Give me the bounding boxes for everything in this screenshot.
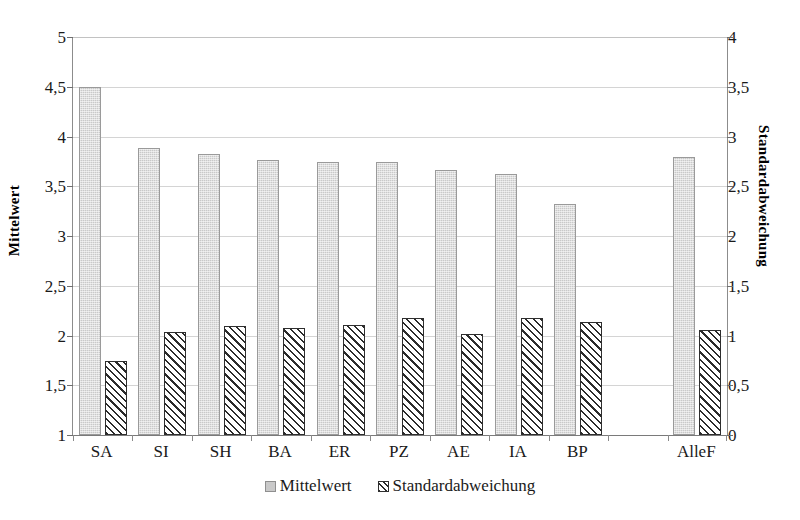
x-axis-label: IA: [488, 440, 547, 466]
x-axis-label: AlleF: [667, 440, 726, 466]
right-axis-tickmark: [727, 236, 733, 237]
bar-mittelwert[interactable]: [257, 160, 279, 435]
bar-standardabweichung[interactable]: [164, 332, 186, 435]
chart-title-remnant: [0, 0, 800, 6]
right-axis-tickmark: [727, 286, 733, 287]
bar-groups: [73, 37, 727, 435]
right-axis-tickmark: [727, 435, 733, 436]
bar-standardabweichung[interactable]: [283, 328, 305, 435]
left-tick-label: 4,5: [45, 79, 66, 96]
bar-group: [430, 37, 489, 435]
left-tick-label: 4: [58, 129, 67, 146]
right-axis-tickmark: [727, 87, 733, 88]
bar-standardabweichung[interactable]: [224, 326, 246, 435]
right-axis-tick-labels: 00,511,522,533,54: [728, 0, 768, 520]
bar-group: [608, 37, 667, 435]
x-axis-label: BA: [250, 440, 309, 466]
bar-group: [132, 37, 191, 435]
right-axis-tickmark: [727, 385, 733, 386]
bar-standardabweichung[interactable]: [461, 334, 483, 435]
x-axis-label: SH: [191, 440, 250, 466]
bar-mittelwert[interactable]: [435, 170, 457, 435]
x-axis-label: AE: [429, 440, 488, 466]
bar-standardabweichung[interactable]: [521, 318, 543, 435]
bar-mittelwert[interactable]: [138, 148, 160, 435]
legend-label: Mittelwert: [280, 476, 352, 496]
bar-standardabweichung[interactable]: [402, 318, 424, 435]
left-tick-label: 3,5: [45, 178, 66, 195]
right-axis-tickmark: [727, 137, 733, 138]
plot-area: [72, 37, 728, 435]
bar-group: [251, 37, 310, 435]
legend-swatch-standardabweichung-icon: [378, 481, 389, 492]
x-axis-tickmark: [726, 435, 727, 441]
bar-group: [370, 37, 429, 435]
bar-group: [549, 37, 608, 435]
left-tick-label: 1: [58, 427, 67, 444]
bar-standardabweichung[interactable]: [699, 330, 721, 435]
legend-item[interactable]: Mittelwert: [265, 476, 352, 496]
bar-group: [311, 37, 370, 435]
x-axis-label: [607, 440, 666, 466]
bar-standardabweichung[interactable]: [105, 361, 127, 435]
left-tick-label: 2,5: [45, 278, 66, 295]
bar-group: [668, 37, 727, 435]
bar-mittelwert[interactable]: [376, 162, 398, 435]
bar-mittelwert[interactable]: [198, 154, 220, 435]
bar-mittelwert[interactable]: [317, 162, 339, 435]
bar-mittelwert[interactable]: [554, 204, 576, 435]
bar-group: [489, 37, 548, 435]
gridline: [73, 435, 727, 436]
x-axis-label: SA: [72, 440, 131, 466]
left-tick-label: 2: [58, 328, 67, 345]
x-axis-label: SI: [131, 440, 190, 466]
right-axis-tickmark: [727, 336, 733, 337]
chart-container: Mittelwert Standardabweichung 11,522,533…: [0, 0, 800, 520]
left-tick-label: 1,5: [45, 377, 66, 394]
x-axis-label: PZ: [369, 440, 428, 466]
left-axis-tick-labels: 11,522,533,544,55: [26, 0, 66, 520]
x-axis-category-labels: SASISHBAERPZAEIABPAlleF: [72, 440, 726, 466]
bar-group: [73, 37, 132, 435]
legend-label: Standardabweichung: [393, 476, 536, 496]
left-tick-label: 3: [58, 228, 67, 245]
right-axis-tickmark: [727, 186, 733, 187]
x-axis-label: ER: [310, 440, 369, 466]
bar-standardabweichung[interactable]: [580, 322, 602, 435]
left-tick-label: 5: [58, 29, 67, 46]
left-axis-title: Mittelwert: [6, 185, 23, 256]
right-axis-tickmark: [727, 37, 733, 38]
bar-group: [192, 37, 251, 435]
legend-item[interactable]: Standardabweichung: [378, 476, 536, 496]
legend-swatch-mittelwert-icon: [265, 481, 276, 492]
x-axis-label: BP: [548, 440, 607, 466]
bar-mittelwert[interactable]: [495, 174, 517, 435]
bar-standardabweichung[interactable]: [343, 325, 365, 435]
chart-legend: MittelwertStandardabweichung: [0, 476, 800, 496]
bar-mittelwert[interactable]: [79, 87, 101, 435]
bar-mittelwert[interactable]: [673, 157, 695, 435]
